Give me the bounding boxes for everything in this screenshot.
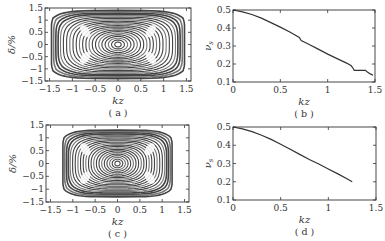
x-tick-label: 0	[230, 203, 236, 213]
y-tick-label: 0.4	[217, 140, 232, 150]
y-tick-label: 1	[37, 15, 43, 25]
panel-a: −1.5−1−0.500.511.51.510.50−0.5−1−1.5kzδ/…	[6, 3, 194, 118]
x-tick-label: 1.5	[179, 84, 194, 94]
panel-label: ( b )	[294, 108, 314, 119]
y-tick-label: −1	[30, 64, 43, 74]
y-tick-label: 1	[38, 133, 44, 143]
y-tick-label: 1.5	[30, 120, 45, 130]
y-tick-label: 0.3	[217, 41, 232, 51]
y-tick-label: 0.5	[217, 122, 232, 132]
nu-s-curve	[233, 10, 373, 75]
y-tick-label: −0.5	[22, 171, 44, 181]
panel-b: 00.511.50.50.40.30.20.1kzνs( b )	[202, 5, 382, 119]
x-tick-label: 0.5	[273, 85, 288, 95]
y-tick-label: 0.4	[217, 23, 232, 33]
panel-label: ( a )	[108, 107, 127, 118]
y-tick-label: 0.1	[217, 77, 231, 87]
phase-orbits	[63, 130, 172, 197]
y-tick-label: 0	[38, 159, 44, 169]
phase-orbits	[52, 10, 185, 78]
x-tick-label: 0	[230, 85, 236, 95]
plot-frame	[233, 10, 375, 82]
x-axis-label: kz	[112, 95, 124, 106]
y-tick-label: 0.5	[29, 27, 44, 37]
plot-frame	[233, 127, 376, 200]
y-tick-label: −1.5	[21, 76, 43, 86]
y-tick-label: 1.5	[29, 3, 44, 13]
x-tick-label: −0.5	[84, 205, 106, 215]
x-tick-label: −0.5	[84, 84, 106, 94]
figure: −1.5−1−0.500.511.51.510.50−0.5−1−1.5kzδ/…	[0, 0, 385, 241]
y-tick-label: 0.3	[217, 159, 232, 169]
x-tick-label: −1	[66, 205, 79, 215]
x-axis-label: kz	[299, 214, 311, 225]
panel-label: ( c )	[108, 228, 127, 239]
y-tick-label: 0.5	[217, 5, 232, 15]
x-tick-label: −1	[66, 84, 79, 94]
x-tick-label: 1.5	[368, 85, 383, 95]
y-axis-label: νs	[202, 41, 215, 51]
x-tick-label: 1	[159, 205, 165, 215]
x-tick-label: 1	[325, 203, 331, 213]
x-tick-label: 0.5	[274, 203, 289, 213]
x-tick-label: 0	[115, 84, 121, 94]
y-tick-label: 0.2	[217, 59, 231, 69]
panel-d: 00.511.50.50.40.30.20.1kzνs( d )	[202, 122, 383, 237]
y-tick-label: 0	[37, 40, 43, 50]
x-tick-label: 1.5	[177, 205, 192, 215]
y-tick-label: 0.1	[217, 195, 231, 205]
x-tick-label: 1	[325, 85, 331, 95]
y-axis-label: δ/%	[7, 154, 18, 173]
y-axis-label: δ/%	[6, 35, 17, 54]
x-tick-label: 1.5	[369, 203, 384, 213]
x-tick-label: 1	[161, 84, 167, 94]
x-tick-label: 0	[115, 205, 121, 215]
y-tick-label: −1.5	[22, 197, 44, 207]
x-axis-label: kz	[298, 96, 310, 107]
y-tick-label: 0.2	[217, 177, 231, 187]
y-tick-label: −1	[31, 184, 44, 194]
y-axis-label: νs	[202, 158, 215, 168]
x-tick-label: 0.5	[133, 205, 148, 215]
y-tick-label: −0.5	[21, 52, 43, 62]
panel-label: ( d )	[295, 226, 315, 237]
panel-c: −1.5−1−0.500.511.51.510.50−0.5−1−1.5kzδ/…	[7, 120, 192, 239]
x-axis-label: kz	[112, 216, 124, 227]
x-tick-label: 0.5	[134, 84, 149, 94]
y-tick-label: 0.5	[30, 146, 45, 156]
nu-s-curve	[233, 127, 352, 182]
